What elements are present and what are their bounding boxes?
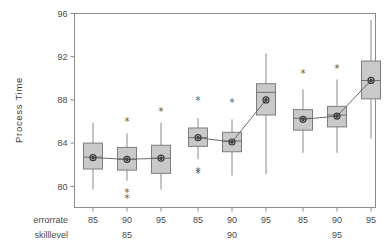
outlier-marker: * — [196, 95, 201, 106]
y-axis-ticks: 8084889296 — [57, 9, 74, 192]
mean-marker-dot — [336, 115, 339, 118]
outlier-marker: * — [335, 63, 340, 74]
mean-marker-dot — [370, 79, 373, 82]
x-group-label-skilllevel: 95 — [332, 230, 342, 240]
boxplot-box — [152, 123, 171, 190]
factor-label-errorrate: errorrate — [33, 215, 68, 225]
x-tick-label-errorrate: 95 — [366, 215, 376, 225]
plot-surface: Process Time 8084889296 ********** 85909… — [0, 0, 391, 250]
y-axis-title: Process Time — [13, 77, 24, 143]
outlier-marker: * — [125, 193, 130, 204]
x-tick-label-errorrate: 85 — [193, 215, 203, 225]
x-tick-label-errorrate: 85 — [298, 215, 308, 225]
mean-marker-dot — [197, 136, 200, 139]
x-group-label-skilllevel: 90 — [227, 230, 237, 240]
x-axis-labels: 859095858590959085909595 — [88, 215, 376, 240]
x-axis-ticks — [93, 208, 371, 212]
y-tick-label: 96 — [57, 9, 67, 19]
y-tick-label: 80 — [57, 182, 67, 192]
x-tick-label-errorrate: 95 — [261, 215, 271, 225]
x-tick-label-errorrate: 85 — [88, 215, 98, 225]
y-tick-label: 84 — [57, 138, 67, 148]
boxplot-chart: Process Time 8084889296 ********** 85909… — [0, 0, 391, 250]
factor-label-skilllevel: skilllevel — [34, 230, 68, 240]
outlier-marker: * — [230, 97, 235, 108]
boxplot-box — [257, 53, 276, 174]
mean-marker-dot — [126, 158, 129, 161]
x-tick-label-errorrate: 90 — [122, 215, 132, 225]
outlier-marker: * — [125, 116, 130, 127]
y-axis-title-group: Process Time — [13, 77, 24, 143]
outlier-marker: * — [196, 168, 201, 179]
boxplot-box — [118, 133, 137, 181]
mean-marker-dot — [231, 141, 234, 144]
factor-name-labels: errorrate skilllevel — [33, 215, 68, 240]
x-group-label-skilllevel: 85 — [122, 230, 132, 240]
outlier-marker: * — [159, 106, 164, 117]
x-tick-label-errorrate: 90 — [332, 215, 342, 225]
mean-marker-dot — [302, 118, 305, 121]
y-tick-label: 88 — [57, 95, 67, 105]
mean-marker-dot — [265, 99, 268, 102]
mean-marker-dot — [92, 156, 95, 159]
boxplot-box — [223, 119, 242, 175]
x-tick-label-errorrate: 95 — [156, 215, 166, 225]
y-tick-label: 92 — [57, 52, 67, 62]
x-tick-label-errorrate: 90 — [227, 215, 237, 225]
outlier-marker: * — [301, 68, 306, 79]
mean-marker-dot — [160, 157, 163, 160]
